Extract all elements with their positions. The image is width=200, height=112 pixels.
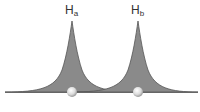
orbital-a-curve	[5, 21, 139, 92]
orbital-b-curve	[71, 21, 198, 92]
wavefunction-plot	[0, 0, 200, 112]
nucleus-b	[133, 87, 143, 97]
orbital-diagram: Ha Hb	[0, 0, 200, 112]
nucleus-a	[67, 87, 77, 97]
atom-label-a: Ha	[65, 4, 78, 20]
atom-label-b: Hb	[131, 4, 144, 20]
